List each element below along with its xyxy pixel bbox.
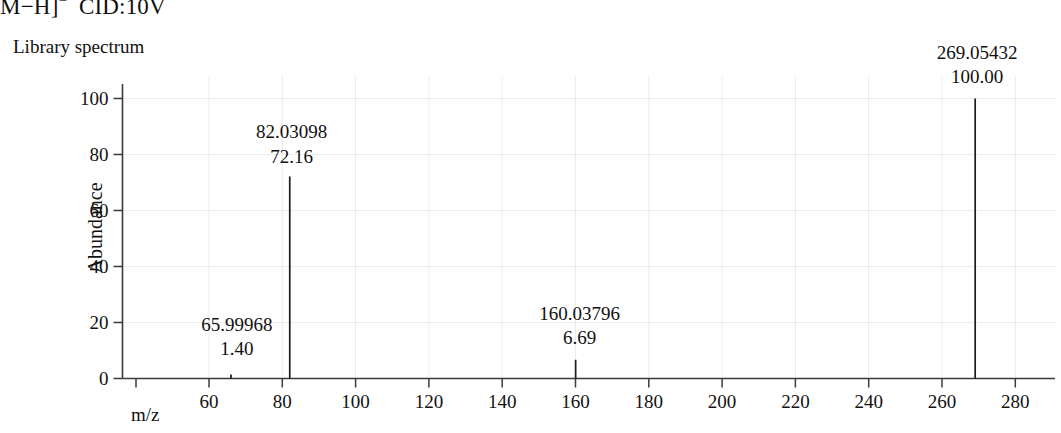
peak-annotation: 65.999681.40 — [201, 313, 272, 362]
y-tick-label: 40 — [90, 256, 109, 278]
x-tick-label: 120 — [415, 391, 444, 413]
peak-abundance-label: 100.00 — [937, 65, 1018, 90]
x-tick-label: 160 — [561, 391, 590, 413]
x-tick-label: 140 — [488, 391, 517, 413]
peak-abundance-label: 72.16 — [256, 145, 327, 170]
peak-abundance-label: 6.69 — [539, 326, 620, 351]
x-tick-label: 60 — [200, 391, 219, 413]
x-tick-label: 100 — [341, 391, 370, 413]
peak-annotation: 160.037966.69 — [539, 302, 620, 351]
y-tick-label: 0 — [99, 368, 109, 390]
x-tick-label: 280 — [1001, 391, 1030, 413]
x-axis-title: m/z — [131, 404, 160, 426]
peak-annotation: 269.05432100.00 — [937, 41, 1018, 90]
x-tick-label: 180 — [635, 391, 664, 413]
peak-annotation: 82.0309872.16 — [256, 120, 327, 169]
mass-spectrum-figure: M−H]− CID:10V Library spectrum Abundance… — [0, 0, 1061, 433]
peak-mz-label: 160.03796 — [539, 302, 620, 327]
x-tick-label: 240 — [854, 391, 883, 413]
y-tick-label: 20 — [90, 312, 109, 334]
peak-mz-label: 269.05432 — [937, 41, 1018, 66]
x-tick-label: 200 — [708, 391, 737, 413]
spectrum-canvas — [0, 0, 1061, 433]
y-tick-label: 100 — [80, 88, 109, 110]
x-tick-label: 220 — [781, 391, 810, 413]
x-tick-label: 260 — [928, 391, 957, 413]
peak-mz-label: 65.99968 — [201, 313, 272, 338]
y-tick-label: 80 — [90, 144, 109, 166]
x-tick-label: 80 — [273, 391, 292, 413]
peak-mz-label: 82.03098 — [256, 120, 327, 145]
plot-area: Abundance m/z 020406080100 6080100120140… — [0, 0, 1061, 433]
peak-abundance-label: 1.40 — [201, 337, 272, 362]
y-tick-label: 60 — [90, 200, 109, 222]
